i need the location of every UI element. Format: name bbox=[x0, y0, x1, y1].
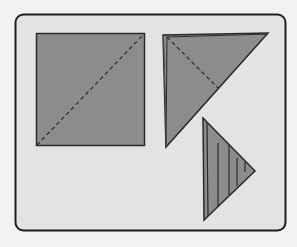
step-1-square bbox=[37, 34, 145, 146]
diagram-stage bbox=[0, 0, 297, 247]
folding-diagram bbox=[0, 0, 297, 247]
